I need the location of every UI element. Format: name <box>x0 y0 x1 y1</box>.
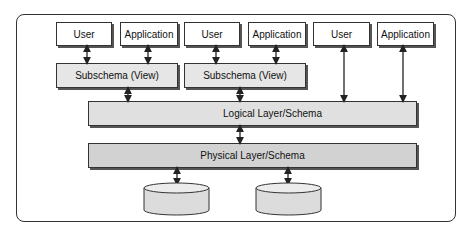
database-cylinder-2 <box>256 183 321 215</box>
database-cylinder-1 <box>144 183 209 215</box>
connectors <box>0 0 474 234</box>
